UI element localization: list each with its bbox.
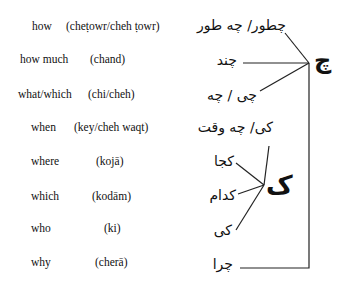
persian-when: کی/ چه وقت <box>198 119 273 135</box>
persian-which: کدام <box>209 187 236 203</box>
translit-when: (key/cheh waqt) <box>74 121 148 133</box>
english-what-which: what/which <box>18 88 72 100</box>
connector-lines <box>0 0 349 289</box>
english-how-much: how much <box>20 53 68 65</box>
english-who: who <box>31 222 51 234</box>
persian-how-much: چند <box>217 52 237 68</box>
translit-why: (cherā) <box>95 256 128 268</box>
persian-who: کی <box>214 222 232 238</box>
persian-what-which: چی / چه <box>207 87 257 103</box>
hub-letter-ke: ک <box>266 170 293 200</box>
translit-what-which: (chi/cheh) <box>88 88 135 100</box>
persian-where: کجا <box>214 153 234 169</box>
translit-who: (ki) <box>104 222 121 234</box>
hub-letter-che: چ <box>314 46 331 74</box>
translit-which: (kodām) <box>92 190 131 202</box>
translit-where: (kojā) <box>96 155 123 167</box>
english-which: which <box>31 190 59 202</box>
persian-how: چطور/ چه طور <box>197 17 286 33</box>
english-why: why <box>31 256 51 268</box>
english-where: where <box>31 155 59 167</box>
persian-why: چرا <box>213 256 233 272</box>
english-when: when <box>31 121 56 133</box>
translit-how-much: (chand) <box>90 53 125 65</box>
translit-how: (cheṭowr/cheh ṭowr) <box>66 20 160 32</box>
english-how: how <box>32 20 52 32</box>
